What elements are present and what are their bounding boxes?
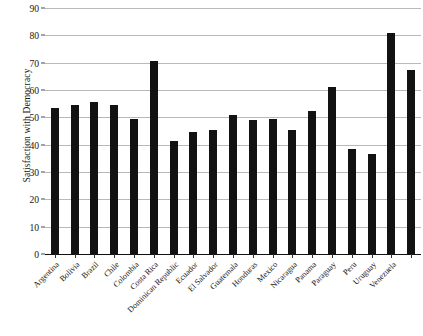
x-tick-mark — [253, 254, 254, 258]
x-tick-label: Bolivia — [58, 260, 81, 283]
bar[interactable] — [229, 115, 237, 254]
y-tick-label-90: 90 — [29, 3, 39, 14]
x-tick-mark — [352, 254, 353, 258]
bar[interactable] — [90, 102, 98, 254]
x-tick-mark — [372, 254, 373, 258]
y-tick-label-50: 50 — [29, 112, 39, 123]
bar[interactable] — [328, 87, 336, 254]
y-tick-label-60: 60 — [29, 85, 39, 96]
x-tick-mark — [292, 254, 293, 258]
x-tick-mark — [174, 254, 175, 258]
bar[interactable] — [308, 111, 316, 255]
bar[interactable] — [387, 33, 395, 254]
bar[interactable] — [288, 130, 296, 254]
y-tick-label-20: 20 — [29, 194, 39, 205]
bar-chart-figure: Satisfaction with Democracy 010203040506… — [0, 0, 423, 336]
y-tick-label-40: 40 — [29, 139, 39, 150]
bar[interactable] — [269, 119, 277, 254]
bar[interactable] — [249, 120, 257, 254]
bar[interactable] — [110, 105, 118, 254]
x-axis: ArgentinaBoliviaBrazilChileColombiaCosta… — [45, 254, 421, 336]
bar[interactable] — [51, 108, 59, 254]
y-tick-label-10: 10 — [29, 221, 39, 232]
y-tick-label-0: 0 — [34, 249, 39, 260]
bar[interactable] — [348, 149, 356, 254]
bar[interactable] — [368, 154, 376, 254]
x-tick-mark — [55, 254, 56, 258]
x-tick-mark — [213, 254, 214, 258]
bar[interactable] — [170, 141, 178, 254]
x-tick-mark — [312, 254, 313, 258]
bar[interactable] — [71, 105, 79, 254]
y-tick-label-70: 70 — [29, 57, 39, 68]
y-tick-label-80: 80 — [29, 30, 39, 41]
bar[interactable] — [407, 70, 415, 255]
x-tick-mark — [75, 254, 76, 258]
bar[interactable] — [209, 130, 217, 254]
x-tick-mark — [332, 254, 333, 258]
bar[interactable] — [150, 61, 158, 254]
plot-area: 0102030405060708090 — [45, 8, 421, 254]
bars-group — [45, 8, 421, 254]
x-tick-mark — [273, 254, 274, 258]
x-tick-mark — [134, 254, 135, 258]
x-tick-mark — [411, 254, 412, 258]
x-tick-mark — [94, 254, 95, 258]
x-tick-mark — [391, 254, 392, 258]
x-tick-mark — [114, 254, 115, 258]
y-tick-label-30: 30 — [29, 167, 39, 178]
x-tick-label: Brazil — [80, 260, 101, 281]
bar[interactable] — [130, 119, 138, 254]
x-tick-label: Argentina — [32, 260, 61, 289]
x-tick-mark — [193, 254, 194, 258]
x-tick-mark — [154, 254, 155, 258]
bar[interactable] — [189, 132, 197, 254]
x-tick-mark — [233, 254, 234, 258]
